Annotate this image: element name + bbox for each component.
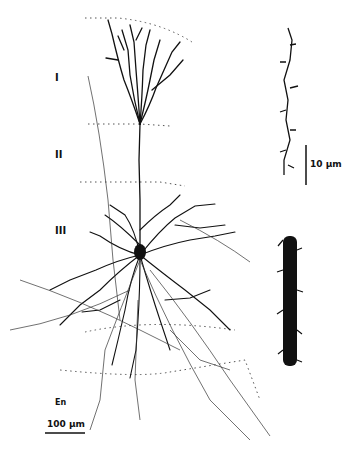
inset-dendrite-thin (280, 28, 298, 175)
layer-boundaries (60, 18, 260, 400)
layer-label-iii: III (55, 225, 66, 236)
apical-tuft (106, 20, 183, 245)
neuron-drawing (0, 0, 356, 454)
inset-scale-label: 10 µm (310, 159, 342, 169)
layer-label-i: I (55, 72, 59, 83)
layer-label-en: En (55, 398, 66, 407)
soma (134, 244, 146, 260)
inset-dendrite-thick (277, 236, 303, 366)
main-scale-label: 100 µm (47, 419, 85, 429)
basal-dendrites (50, 195, 235, 378)
layer-label-ii: II (55, 149, 62, 160)
